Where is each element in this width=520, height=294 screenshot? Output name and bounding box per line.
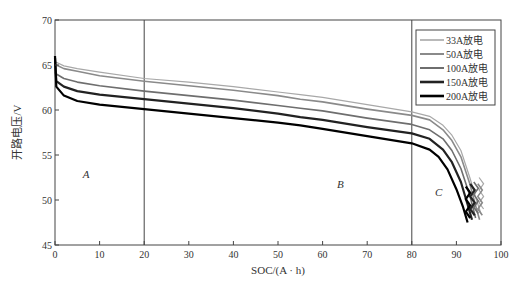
x-tick-label: 20 bbox=[139, 249, 149, 260]
x-tick-label: 90 bbox=[451, 249, 461, 260]
legend-label: 200A放电 bbox=[446, 90, 488, 102]
x-tick-label: 100 bbox=[494, 249, 509, 260]
x-tick-label: 70 bbox=[362, 249, 372, 260]
x-tick-label: 40 bbox=[228, 249, 238, 260]
y-tick-label: 50 bbox=[42, 195, 52, 206]
region-label-a: A bbox=[82, 168, 90, 180]
y-tick-label: 60 bbox=[42, 105, 52, 116]
x-tick-label: 30 bbox=[184, 249, 194, 260]
y-tick-label: 55 bbox=[42, 150, 52, 161]
x-tick-label: 80 bbox=[407, 249, 417, 260]
series-line-5 bbox=[55, 56, 468, 223]
y-tick-label: 45 bbox=[42, 240, 52, 251]
region-label-c: C bbox=[435, 186, 443, 198]
discharge-voltage-chart: 0102030405060708090100455055606570 ABC 3… bbox=[0, 0, 520, 294]
legend: 33A放电50A放电100A放电150A放电200A放电 bbox=[416, 30, 495, 105]
series-line-4 bbox=[55, 58, 472, 220]
y-tick-label: 70 bbox=[42, 15, 52, 26]
legend-label: 100A放电 bbox=[446, 62, 488, 74]
x-tick-label: 0 bbox=[53, 249, 58, 260]
y-tick-label: 65 bbox=[42, 60, 52, 71]
region-labels: ABC bbox=[82, 168, 443, 198]
x-tick-label: 50 bbox=[273, 249, 283, 260]
x-tick-label: 60 bbox=[318, 249, 328, 260]
legend-label: 50A放电 bbox=[446, 48, 483, 60]
x-axis-label: SOC/(A · h) bbox=[251, 264, 305, 277]
region-dividers bbox=[144, 20, 412, 245]
legend-label: 150A放电 bbox=[446, 76, 488, 88]
legend-label: 33A放电 bbox=[446, 34, 483, 46]
x-tick-label: 10 bbox=[95, 249, 105, 260]
y-axis-label: 开路电压/V bbox=[11, 104, 23, 159]
region-label-b: B bbox=[337, 178, 344, 190]
